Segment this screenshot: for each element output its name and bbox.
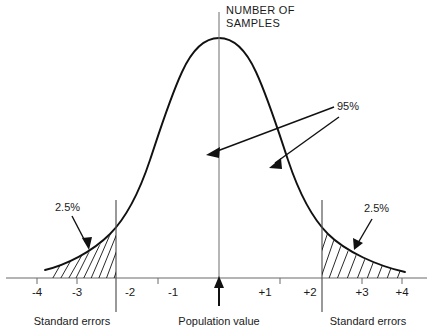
tick-label-neg1: -1 [168, 286, 178, 298]
population-value-caption: Population value [178, 315, 259, 327]
left-standard-errors-caption: Standard errors [34, 315, 111, 327]
right-tail-hatching [300, 226, 402, 292]
arrowhead-95-right [269, 158, 282, 169]
left-tail-hatching [46, 226, 138, 292]
arrowhead-left-tail [82, 237, 92, 250]
central-95-percent-label: 95% [337, 100, 359, 112]
tick-label-neg3: -3 [72, 286, 82, 298]
tick-label-neg4: -4 [32, 286, 43, 298]
right-standard-errors-caption: Standard errors [330, 315, 407, 327]
tick-label-neg2: -2 [125, 286, 135, 298]
tick-label-pos3: +3 [355, 286, 368, 298]
tick-label-pos2: +2 [303, 286, 316, 298]
left-tail-percent-label: 2.5% [55, 201, 80, 213]
tick-label-pos1: +1 [258, 286, 271, 298]
distribution-chart-svg: NUMBER OF SAMPLES 95% 2.5% 2.5% -4 -3 -2… [0, 0, 433, 333]
normal-distribution-figure: NUMBER OF SAMPLES 95% 2.5% 2.5% -4 -3 -2… [0, 0, 433, 333]
arrowhead-95-left [206, 147, 220, 158]
distribution-curve [45, 38, 405, 272]
chart-title-line2: SAMPLES [226, 17, 280, 29]
chart-title-line1: NUMBER OF [226, 4, 295, 16]
leader-line-right-tail [358, 219, 372, 243]
right-tail-percent-label: 2.5% [364, 202, 389, 214]
arrowhead-right-tail [353, 238, 363, 250]
tick-label-pos4: +4 [395, 286, 409, 298]
leader-line-95-right [275, 117, 339, 163]
